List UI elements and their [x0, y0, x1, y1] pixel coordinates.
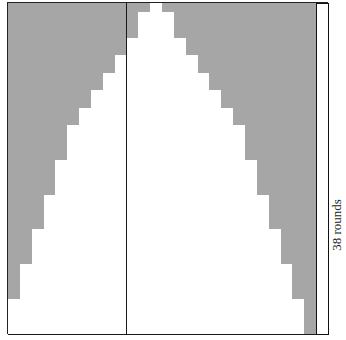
stitches-label: stitches	[110, 334, 230, 340]
rounds-label-text: 38 rounds	[329, 199, 345, 251]
knitting-chart	[7, 2, 328, 334]
chart-cell	[316, 325, 329, 335]
chart-grid	[7, 2, 328, 334]
rounds-label: 38 rounds	[327, 170, 346, 280]
